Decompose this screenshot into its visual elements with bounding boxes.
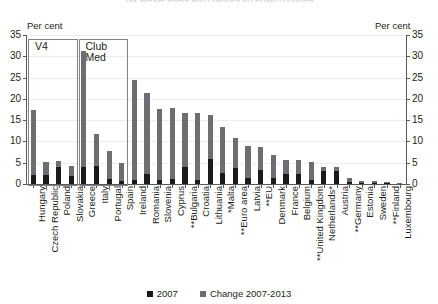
y-axis-tick-label: 35 [412,30,423,40]
y-axis-tick-label: 10 [10,136,21,146]
bar-segment-2007 [81,167,86,184]
bar-segment-2007 [233,168,238,184]
bar-stack [182,35,187,184]
bar-stack [283,35,288,184]
bar-stack [56,35,61,184]
x-axis-label: Italy [100,186,110,203]
y-axis-tick-label: 20 [412,94,423,104]
bar-stack [220,35,225,184]
x-axis-label: Spain [125,186,135,210]
bar-stack [43,35,48,184]
legend-swatch-icon [147,291,153,297]
bar-segment-2007 [94,166,99,184]
x-axis-label: Latvia [252,186,262,211]
x-axis-label: **United Kingdom [315,186,325,261]
x-axis-label: Denmark [277,186,287,225]
bar-stack [195,35,200,184]
x-axis-label: Sweden [378,186,388,220]
bar-segment-change [31,110,36,175]
bar-stack [170,35,175,184]
x-axis-label: Austria [340,186,350,216]
bar-segment-change [157,109,162,180]
axis-tick [23,78,26,79]
axis-tick [407,141,410,142]
bar-segment-2007 [144,174,149,184]
y-axis-tick-label: 30 [10,51,21,61]
axis-tick [23,99,26,100]
bar-stack [119,35,124,184]
bar-segment-change [233,138,238,168]
left-axis-unit-label: Per cent [27,20,62,31]
bar-segment-change [334,167,339,171]
bar-segment-2007 [56,167,61,184]
y-axis-tick-label: 5 [412,158,418,168]
bar-segment-2007 [69,176,74,184]
x-axis-label: Slovenia [163,186,173,222]
bar-segment-2007 [208,159,213,184]
x-axis-label: **Euro area [239,186,249,235]
bar-stack [384,35,389,184]
bar-segment-2007 [220,173,225,184]
bar-stack [309,35,314,184]
y-axis-tick-label: 10 [412,136,423,146]
legend-label: Change 2007-2013 [210,288,291,299]
x-axis-label: Poland [62,186,72,216]
bar-segment-change [258,147,263,170]
axis-tick [23,56,26,57]
legend-item[interactable]: 2007 [147,288,178,299]
x-axis-label: Luxembourg [403,186,413,239]
x-axis-label: Portugal [113,186,123,221]
x-axis-label: Croatia [201,186,211,217]
x-axis-label: Belgium [302,186,312,220]
x-axis-label: Hungary [37,186,47,222]
chart-container: Tax wedge levels and changes in certain … [0,0,438,304]
y-axis-tick-label: 15 [10,115,21,125]
chart-legend: 2007Change 2007-2013 [0,288,438,299]
bar-segment-change [309,162,314,180]
bar-segment-change [321,167,326,171]
bar-stack [245,35,250,184]
y-axis-tick-label: 30 [412,51,423,61]
bar-stack [372,35,377,184]
bar-stack [208,35,213,184]
bar-stack [144,35,149,184]
bar-segment-change [56,161,61,167]
axis-tick [407,35,410,36]
x-axis-label: *Malta [226,186,236,213]
bar-segment-2007 [258,170,263,184]
axis-tick [407,184,410,185]
x-axis-label: Slovakia [75,186,85,222]
bar-segment-change [69,166,74,176]
bar-segment-change [107,151,112,179]
axis-tick [23,35,26,36]
x-axis-label: Lithuania [214,186,224,225]
bar-stack [321,35,326,184]
plot-area: 0055101015152020252530303535 V4Club Med [26,35,407,185]
bar-stack [233,35,238,184]
axis-tick [23,141,26,142]
bar-stack [157,35,162,184]
bar-segment-change [182,113,187,167]
bar-segment-2007 [182,167,187,184]
bar-stack [31,35,36,184]
bar-stack [296,35,301,184]
bar-segment-change [119,163,124,181]
bar-segment-2007 [283,174,288,184]
y-axis-tick-label: 0 [15,179,21,189]
axis-tick [23,120,26,121]
bar-stack [397,35,402,184]
bar-segment-change [372,181,377,183]
legend-item[interactable]: Change 2007-2013 [200,288,291,299]
axis-tick [407,120,410,121]
bar-segment-change [220,127,225,174]
y-axis-tick-label: 20 [10,94,21,104]
bar-stack [107,35,112,184]
y-axis-tick-label: 25 [10,73,21,83]
bar-stack [271,35,276,184]
right-axis-unit-label: Per cent [375,20,410,31]
x-axis-label: Estonia [365,186,375,218]
x-axis-label: Netherlands* [327,186,337,241]
bar-segment-change [81,51,86,167]
x-axis-label: **EU [264,186,274,207]
bar-segment-change [245,146,250,178]
